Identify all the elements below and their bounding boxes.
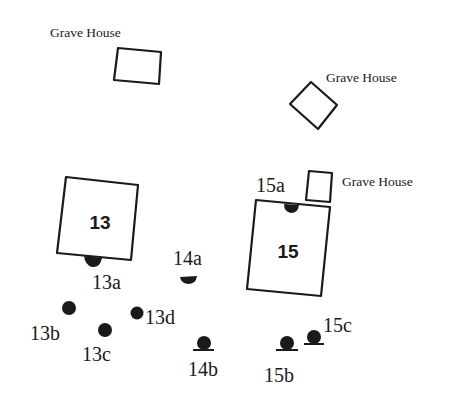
feature-13d-label: 13d: [145, 306, 175, 328]
feature-14b-label: 14b: [188, 358, 218, 380]
structure-13: 13: [57, 177, 138, 260]
feature-15a-label: 15a: [256, 174, 285, 196]
feature-13a-label: 13a: [92, 271, 121, 293]
grave-house-2-label: Grave House: [326, 70, 397, 85]
feature-15a: 15a: [256, 174, 299, 213]
feature-15b-marker: [280, 336, 294, 350]
grave-house-1-outline: [114, 48, 161, 84]
feature-13b: 13b: [30, 301, 76, 344]
feature-13c-marker: [98, 323, 112, 337]
grave-house-3-outline: [306, 171, 332, 202]
structure-13-label: 13: [89, 212, 110, 233]
feature-15b-label: 15b: [264, 364, 294, 386]
structure-15-label: 15: [277, 241, 299, 262]
feature-15a-marker: [284, 204, 299, 213]
feature-13a: 13a: [84, 256, 121, 293]
feature-15c: 15c: [304, 314, 352, 344]
feature-14a-marker: [180, 276, 197, 284]
feature-15b: 15b: [264, 336, 298, 386]
grave-house-2-outline: [290, 82, 337, 129]
feature-13c-label: 13c: [82, 343, 111, 365]
feature-14b: 14b: [188, 336, 218, 380]
feature-15c-marker: [307, 330, 321, 344]
feature-13d-marker: [131, 307, 144, 320]
feature-15c-label: 15c: [323, 314, 352, 336]
site-plan-diagram: Grave House Grave House Grave House 13 1…: [0, 0, 464, 409]
feature-13d: 13d: [131, 306, 176, 328]
grave-house-2: Grave House: [290, 70, 397, 129]
feature-14a: 14a: [173, 247, 202, 284]
feature-13c: 13c: [82, 323, 112, 365]
grave-house-1: Grave House: [50, 25, 161, 84]
feature-14b-marker: [197, 336, 211, 350]
grave-house-1-label: Grave House: [50, 25, 121, 40]
feature-14a-label: 14a: [173, 247, 202, 269]
grave-house-3-label: Grave House: [342, 174, 413, 189]
structure-15: 15: [247, 200, 330, 296]
feature-13b-label: 13b: [30, 322, 60, 344]
grave-house-3: Grave House: [306, 171, 413, 202]
feature-13b-marker: [62, 301, 76, 315]
